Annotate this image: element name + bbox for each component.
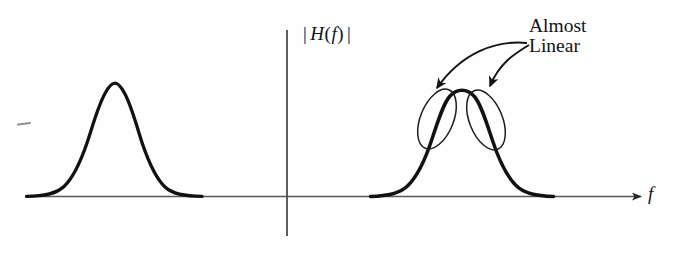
magnitude-open-bar: | <box>303 23 307 44</box>
callout-line-1: Almost <box>529 16 586 36</box>
positive-frequency-lobe-curve <box>371 90 554 196</box>
signal-spectrum-figure: |H(f)| Almost Linear f <box>0 0 684 279</box>
y-axis-label: |H(f)| <box>303 24 351 44</box>
x-axis-label: f <box>648 184 653 204</box>
almost-linear-callout-text: Almost Linear <box>529 16 586 57</box>
callout-arrow-left <box>437 43 527 88</box>
stray-dash-mark <box>18 123 30 125</box>
close-paren: ) <box>337 23 344 44</box>
transfer-function-symbol: H <box>310 23 324 44</box>
negative-frequency-lobe-curve <box>27 83 203 196</box>
callout-arrow-right <box>490 45 529 86</box>
callout-line-2: Linear <box>529 36 586 56</box>
magnitude-close-bar: | <box>347 23 351 44</box>
